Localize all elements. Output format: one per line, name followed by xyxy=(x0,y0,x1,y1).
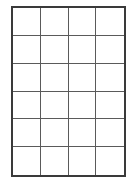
grid-cell xyxy=(69,92,97,120)
grid-cell xyxy=(96,64,124,92)
grid-cell xyxy=(69,36,97,64)
grid-cell xyxy=(41,8,69,36)
grid-cell xyxy=(13,147,41,175)
grid-cell xyxy=(96,36,124,64)
grid-cell xyxy=(13,119,41,147)
grid-cell xyxy=(41,36,69,64)
grid-cell xyxy=(41,64,69,92)
grid-cell xyxy=(13,36,41,64)
grid-cell xyxy=(13,8,41,36)
grid-cell xyxy=(96,119,124,147)
grid-cell xyxy=(69,147,97,175)
grid-cell xyxy=(41,119,69,147)
grid-cell xyxy=(69,119,97,147)
grid-cell xyxy=(69,64,97,92)
grid-cell xyxy=(69,8,97,36)
empty-grid-table xyxy=(11,6,126,177)
grid-cell xyxy=(13,64,41,92)
grid-cell xyxy=(96,147,124,175)
grid-cell xyxy=(41,147,69,175)
grid-cell xyxy=(41,92,69,120)
grid-cell xyxy=(96,92,124,120)
grid-cell xyxy=(13,92,41,120)
canvas xyxy=(0,0,138,182)
grid-cell xyxy=(96,8,124,36)
